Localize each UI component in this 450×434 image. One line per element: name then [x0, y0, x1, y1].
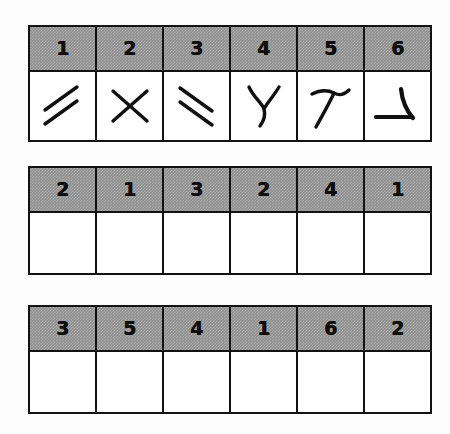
answer-table-1-answer-cell-4[interactable]: [231, 213, 298, 273]
symbol-key-header-cell-3: 3: [164, 27, 231, 70]
symbol-key-cell-2: [97, 72, 164, 140]
answer-table-1-header-cell-6: 1: [365, 168, 430, 211]
symbol-key-symbol-row: [30, 72, 430, 140]
answer-table-1-header-cell-5: 4: [298, 168, 365, 211]
symbol-key-header-cell-4: 4: [231, 27, 298, 70]
answer-table-1-answer-row: [30, 213, 430, 273]
symbol-key-header-label-5: 5: [324, 39, 337, 58]
symbol-key-cell-3: [164, 72, 231, 140]
answer-table-2: 3 5 4 1 6 2: [28, 305, 432, 414]
symbol-key-cell-4: [231, 72, 298, 140]
answer-table-2-header-cell-5: 6: [298, 307, 365, 350]
answer-table-1-header-cell-1: 2: [30, 168, 97, 211]
answer-table-1-header-label-5: 4: [324, 180, 337, 199]
answer-table-2-answer-cell-4[interactable]: [231, 352, 298, 412]
double-slash-up-right-icon: [36, 79, 90, 133]
answer-table-2-header-label-4: 1: [257, 319, 270, 338]
y-upright-icon: [237, 79, 291, 133]
answer-table-1-header-cell-2: 1: [97, 168, 164, 211]
symbol-key-cell-1: [30, 72, 97, 140]
answer-table-2-answer-cell-2[interactable]: [97, 352, 164, 412]
symbol-key-header-label-1: 1: [56, 39, 69, 58]
answer-table-2-header-cell-4: 1: [231, 307, 298, 350]
x-cross-icon: [103, 79, 157, 133]
answer-table-2-answer-cell-5[interactable]: [298, 352, 365, 412]
answer-table-2-header-label-5: 6: [324, 319, 337, 338]
symbol-key-header-label-3: 3: [190, 39, 203, 58]
answer-table-2-answer-cell-6[interactable]: [365, 352, 430, 412]
answer-table-2-header-label-2: 5: [123, 319, 136, 338]
symbol-key-header-row: 1 2 3 4 5 6: [30, 27, 430, 72]
answer-table-1-header-label-6: 1: [391, 180, 404, 199]
symbol-key-header-cell-1: 1: [30, 27, 97, 70]
y-rotated-left-icon: [371, 79, 425, 133]
answer-table-2-header-cell-6: 2: [365, 307, 430, 350]
y-rotated-up-right-icon: [304, 79, 358, 133]
answer-table-2-answer-cell-3[interactable]: [164, 352, 231, 412]
answer-table-1-answer-cell-5[interactable]: [298, 213, 365, 273]
answer-table-1-answer-cell-1[interactable]: [30, 213, 97, 273]
answer-table-2-header-cell-2: 5: [97, 307, 164, 350]
answer-table-2-answer-row: [30, 352, 430, 412]
symbol-key-header-cell-2: 2: [97, 27, 164, 70]
answer-table-1-answer-cell-2[interactable]: [97, 213, 164, 273]
answer-table-2-header-label-3: 4: [190, 319, 203, 338]
answer-table-1-header-row: 2 1 3 2 4 1: [30, 168, 430, 213]
symbol-key-header-label-6: 6: [391, 39, 404, 58]
worksheet-sheet: 1 2 3 4 5 6: [0, 0, 450, 434]
answer-table-2-header-row: 3 5 4 1 6 2: [30, 307, 430, 352]
answer-table-1-header-label-1: 2: [56, 180, 69, 199]
answer-table-2-header-cell-3: 4: [164, 307, 231, 350]
symbol-key-header-label-4: 4: [257, 39, 270, 58]
symbol-key-header-cell-5: 5: [298, 27, 365, 70]
symbol-key-cell-6: [365, 72, 430, 140]
symbol-key-header-cell-6: 6: [365, 27, 430, 70]
answer-table-1-header-cell-3: 3: [164, 168, 231, 211]
double-slash-down-right-icon: [170, 79, 224, 133]
answer-table-1-answer-cell-6[interactable]: [365, 213, 430, 273]
answer-table-1-header-label-2: 1: [123, 180, 136, 199]
answer-table-2-header-cell-1: 3: [30, 307, 97, 350]
answer-table-1-header-cell-4: 2: [231, 168, 298, 211]
symbol-key-table: 1 2 3 4 5 6: [28, 25, 432, 142]
answer-table-1-header-label-3: 3: [190, 180, 203, 199]
answer-table-1-answer-cell-3[interactable]: [164, 213, 231, 273]
answer-table-1: 2 1 3 2 4 1: [28, 166, 432, 275]
answer-table-1-header-label-4: 2: [257, 180, 270, 199]
answer-table-2-answer-cell-1[interactable]: [30, 352, 97, 412]
answer-table-2-header-label-1: 3: [56, 319, 69, 338]
symbol-key-header-label-2: 2: [123, 39, 136, 58]
symbol-key-cell-5: [298, 72, 365, 140]
answer-table-2-header-label-6: 2: [391, 319, 404, 338]
